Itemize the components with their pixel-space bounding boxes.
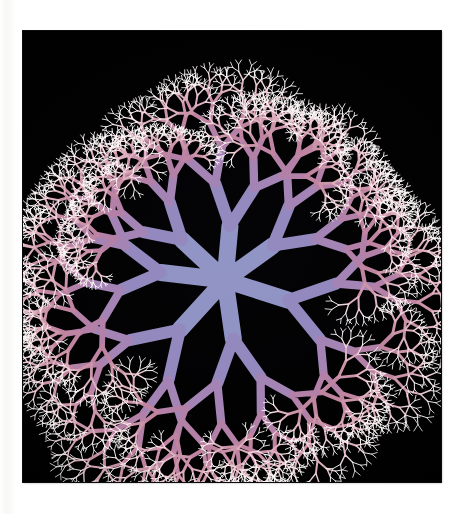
figure-title: Radial dichotomous branching fractal xyxy=(0,0,1,1)
fractal-root xyxy=(23,60,441,482)
figure-plate xyxy=(23,31,441,482)
figure-page: Radial dichotomous branching fractal xyxy=(0,0,461,514)
branching-fractal-canvas xyxy=(23,31,441,482)
figure-caption xyxy=(0,0,1,1)
